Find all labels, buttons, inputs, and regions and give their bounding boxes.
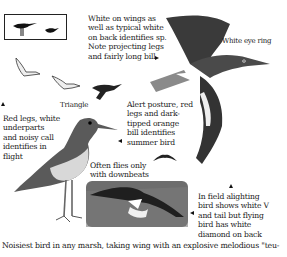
pointer-triangle-up-2	[229, 184, 233, 188]
alighting-bird-field-illustration	[84, 177, 190, 229]
pointer-triangle-left	[118, 139, 122, 143]
silhouette-birds-icon	[5, 15, 68, 41]
label-white-eye-ring: White eye ring	[222, 37, 271, 45]
note-alert-posture: Alert posture, red legs and dark- tipped…	[127, 100, 193, 147]
small-flying-birds-icon	[6, 54, 126, 104]
silhouette-box	[4, 14, 67, 40]
small-flight-silhouette-icon	[153, 153, 177, 163]
pointer-triangle-left-2	[190, 211, 194, 215]
caption-text: Noisiest bird in any marsh, taking wing …	[2, 241, 279, 250]
pointer-triangle-up	[1, 102, 5, 106]
note-alighting: In field alighting bird shows white V an…	[198, 192, 269, 239]
